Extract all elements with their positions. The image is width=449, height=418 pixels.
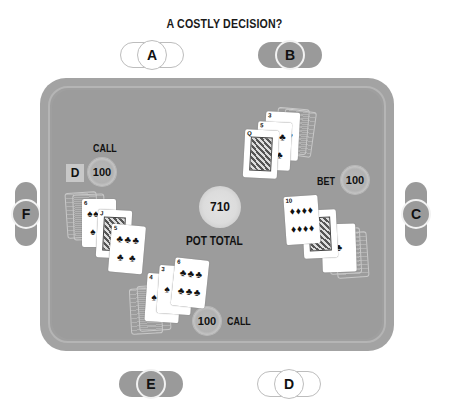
dealer-button: D	[66, 164, 84, 182]
card-f-3: 5 ♣♣♣♣♣	[108, 224, 146, 275]
action-label-c: BET	[317, 175, 335, 187]
diagram-title: A COSTLY DECISION?	[34, 17, 416, 31]
seat-label: E	[136, 369, 166, 399]
seat-label: D	[274, 369, 304, 399]
seat-d: D	[257, 367, 321, 401]
action-label-f: CALL	[93, 142, 117, 154]
seat-label: F	[11, 199, 41, 229]
seat-f: F	[11, 182, 41, 246]
face-card-art	[249, 136, 273, 171]
bet-chip-c: 100	[341, 166, 369, 194]
action-label-e: CALL	[227, 315, 251, 327]
seat-e: E	[119, 367, 183, 401]
seat-b: B	[258, 38, 322, 72]
card-e-3: 6 ♣♣♣♣♣♣	[171, 257, 210, 308]
bet-chip-f: 100	[88, 158, 116, 186]
seat-label: B	[275, 40, 305, 70]
seat-c: C	[401, 182, 431, 246]
card-b-1: Q	[243, 129, 279, 179]
pot-chip: 710	[199, 186, 241, 228]
bet-chip-e: 100	[193, 307, 221, 335]
seat-label: C	[401, 199, 431, 229]
seat-a: A	[120, 38, 184, 72]
seat-label: A	[137, 40, 167, 70]
pot-label: POT TOTAL	[186, 234, 243, 248]
card-c-1: 10 ♦♦♦♦♦♦♦♦	[283, 195, 320, 245]
